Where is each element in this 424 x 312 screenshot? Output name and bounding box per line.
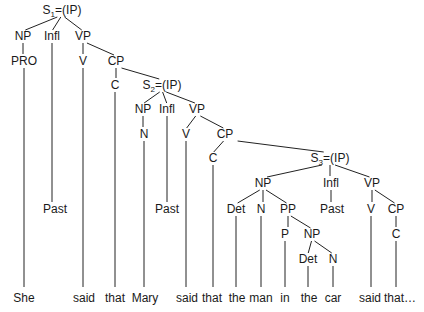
node-s1: S1=(IP) <box>43 3 82 19</box>
node-pp3: PP <box>280 202 296 216</box>
node-cp1: CP <box>108 54 125 68</box>
node-past2: Past <box>155 202 180 216</box>
node-label: S <box>143 78 151 92</box>
node-label: V <box>79 54 87 68</box>
node-label: Past <box>43 202 68 216</box>
node-v2: V <box>182 127 190 141</box>
word-2: that <box>105 291 126 305</box>
node-past3: Past <box>320 202 345 216</box>
node-vp1: VP <box>75 29 91 43</box>
edge-s3-np3 <box>267 165 322 177</box>
node-label: PP <box>280 202 296 216</box>
node-np3: NP <box>255 176 272 190</box>
node-label: VP <box>75 29 91 43</box>
word-6: the <box>229 291 246 305</box>
word-12: that… <box>384 291 416 305</box>
word-5: that <box>202 291 223 305</box>
node-s3: S3=(IP) <box>311 151 350 167</box>
node-label: CP <box>108 54 125 68</box>
node-label: C <box>209 151 218 165</box>
node-label: Det <box>299 252 318 266</box>
node-infl2: Infl <box>159 102 175 116</box>
node-label: VP <box>364 176 380 190</box>
node-label: N <box>140 127 149 141</box>
node-np1: NP <box>15 29 32 43</box>
tree-nodes: S1=(IP)NPInflVPPROVCPCS2=(IP)NPInflVPNVC… <box>11 3 404 266</box>
terminal-words: ShesaidthatMarysaidthatthemaninthecarsai… <box>13 291 416 305</box>
node-past1: Past <box>43 202 68 216</box>
node-label: N <box>329 252 338 266</box>
node-label: Past <box>320 202 345 216</box>
node-label: V <box>367 202 375 216</box>
node-label: S <box>43 3 51 17</box>
node-c3: C <box>392 227 401 241</box>
node-np4: NP <box>304 227 321 241</box>
node-label: NP <box>15 29 32 43</box>
node-label: Infl <box>159 102 175 116</box>
word-0: She <box>13 291 35 305</box>
node-s2: S2=(IP) <box>143 78 182 94</box>
node-n3: N <box>257 202 266 216</box>
node-n2: N <box>140 127 149 141</box>
node-c1: C <box>111 78 120 92</box>
node-v3: V <box>367 202 375 216</box>
node-n4: N <box>329 252 338 266</box>
node-label: NP <box>135 102 152 116</box>
node-label: Infl <box>44 29 60 43</box>
node-det4: Det <box>299 252 318 266</box>
node-vp3: VP <box>364 176 380 190</box>
node-p3: P <box>281 227 289 241</box>
node-suffix: =(IP) <box>323 151 349 165</box>
node-v1: V <box>79 54 87 68</box>
word-9: the <box>301 291 318 305</box>
node-suffix: =(IP) <box>55 3 81 17</box>
node-np2: NP <box>135 102 152 116</box>
node-label: V <box>182 127 190 141</box>
word-7: man <box>249 291 272 305</box>
node-cp2: CP <box>217 127 234 141</box>
word-10: car <box>325 291 342 305</box>
node-label: VP <box>189 102 205 116</box>
node-label: Past <box>155 202 180 216</box>
node-label: NP <box>304 227 321 241</box>
node-label: N <box>257 202 266 216</box>
node-label: CP <box>388 202 405 216</box>
node-det3: Det <box>227 202 246 216</box>
node-label: C <box>111 78 120 92</box>
node-infl3: Infl <box>323 176 339 190</box>
word-11: said <box>359 291 381 305</box>
node-vp2: VP <box>189 102 205 116</box>
node-pro1: PRO <box>11 54 37 68</box>
node-label: C <box>392 227 401 241</box>
node-label: NP <box>255 176 272 190</box>
node-label: CP <box>217 127 234 141</box>
node-label: S <box>311 151 319 165</box>
node-infl1: Infl <box>44 29 60 43</box>
node-label: PRO <box>11 54 37 68</box>
syntax-tree: S1=(IP)NPInflVPPROVCPCS2=(IP)NPInflVPNVC… <box>0 0 424 312</box>
node-label: P <box>281 227 289 241</box>
edge-cp1-s2 <box>122 68 160 79</box>
word-3: Mary <box>132 291 159 305</box>
word-1: said <box>73 291 95 305</box>
node-suffix: =(IP) <box>155 78 181 92</box>
node-label: Det <box>227 202 246 216</box>
node-cp3: CP <box>388 202 405 216</box>
word-8: in <box>280 291 289 305</box>
node-c2: C <box>209 151 218 165</box>
node-label: Infl <box>323 176 339 190</box>
word-4: said <box>176 291 198 305</box>
